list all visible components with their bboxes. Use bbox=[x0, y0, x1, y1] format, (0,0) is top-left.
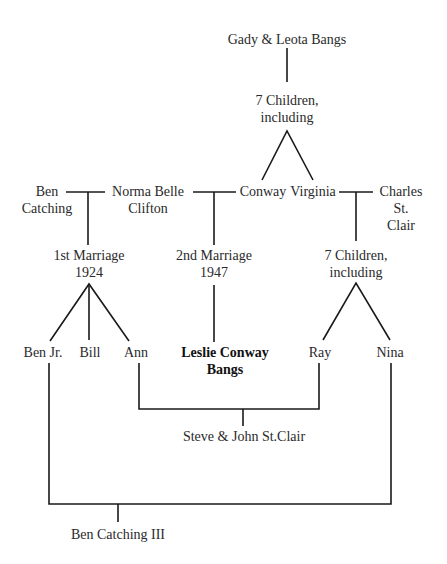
node-conway: Conway bbox=[240, 183, 287, 200]
family-tree-diagram: Gady & Leota Bangs 7 Children, including… bbox=[0, 0, 447, 564]
node-ben-jr: Ben Jr. bbox=[24, 344, 63, 361]
node-leslie-conway-bangs: Leslie Conway Bangs bbox=[181, 344, 269, 378]
node-ben-catching: Ben Catching bbox=[22, 183, 73, 217]
connector-stclair-children bbox=[323, 283, 390, 340]
node-nina: Nina bbox=[376, 344, 403, 361]
connector-lines bbox=[0, 0, 447, 564]
node-bangs-children: 7 Children, including bbox=[256, 92, 319, 126]
node-second-marriage: 2nd Marriage 1947 bbox=[176, 247, 252, 281]
node-ann: Ann bbox=[124, 344, 148, 361]
node-ray: Ray bbox=[309, 344, 332, 361]
node-first-marriage: 1st Marriage 1924 bbox=[53, 247, 124, 281]
connector-bangs-children bbox=[262, 131, 313, 180]
node-stclair-children: 7 Children, including bbox=[325, 247, 388, 281]
node-ben-catching-iii: Ben Catching III bbox=[71, 526, 165, 543]
node-steve-john-st-clair: Steve & John St.Clair bbox=[183, 428, 305, 445]
node-norma-belle-clifton: Norma Belle Clifton bbox=[112, 183, 184, 217]
node-bill: Bill bbox=[79, 344, 100, 361]
node-charles-st-clair: Charles St. Clair bbox=[378, 183, 424, 234]
node-gady-leota-bangs: Gady & Leota Bangs bbox=[228, 31, 347, 48]
node-virginia: Virginia bbox=[290, 183, 336, 200]
